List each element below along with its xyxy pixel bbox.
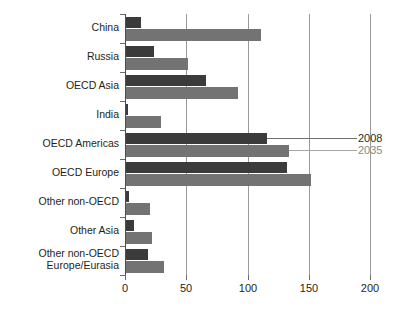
- bar-other-non-oecd-2035: [125, 203, 150, 215]
- bar-oecd-asia-2035: [125, 87, 238, 99]
- x-tick-100: [248, 275, 249, 280]
- series-label-2035: 2035: [358, 144, 382, 156]
- bar-russia-2008: [125, 46, 154, 57]
- bar-oecd-europe-2035: [125, 174, 311, 186]
- bar-oecd-europe-2008: [125, 162, 287, 173]
- cat-label-8: Other non-OECD Europe/Eurasia: [0, 248, 119, 271]
- x-tick-200: [370, 275, 371, 280]
- cat-label-6: Other non-OECD: [0, 196, 119, 208]
- bar-other-asia-2035: [125, 232, 152, 244]
- cat-label-3: India: [0, 109, 119, 121]
- x-tick-150: [309, 275, 310, 280]
- cat-label-1: Russia: [0, 51, 119, 63]
- bar-russia-2035: [125, 58, 188, 70]
- bar-other-asia-2008: [125, 220, 134, 231]
- cat-label-2: OECD Asia: [0, 80, 119, 92]
- bar-china-2035: [125, 29, 261, 41]
- series-label-2008: 2008: [358, 132, 382, 144]
- y-axis-category-labels: China Russia OECD Asia India OECD Americ…: [0, 14, 119, 275]
- cat-label-0: China: [0, 22, 119, 34]
- gridline-150: [309, 14, 310, 275]
- bar-chart: China Russia OECD Asia India OECD Americ…: [0, 0, 399, 313]
- leader-line-2035: [289, 150, 357, 151]
- bar-china-2008: [125, 17, 141, 28]
- plot-area: [125, 14, 370, 275]
- x-tick-label-0: 0: [105, 282, 145, 294]
- x-tick-label-100: 100: [228, 282, 268, 294]
- bar-india-2035: [125, 116, 161, 128]
- leader-line-2008: [267, 138, 357, 139]
- x-tick-label-50: 50: [166, 282, 206, 294]
- bar-other-non-oecd-europe-eurasia-2008: [125, 249, 148, 260]
- bar-oecd-asia-2008: [125, 75, 206, 86]
- cat-label-7: Other Asia: [0, 225, 119, 237]
- x-tick-label-150: 150: [289, 282, 329, 294]
- y-axis-line: [125, 14, 126, 275]
- x-tick-0: [125, 275, 126, 280]
- bar-oecd-americas-2035: [125, 145, 289, 157]
- bar-other-non-oecd-europe-eurasia-2035: [125, 261, 164, 273]
- cat-label-4: OECD Americas: [0, 138, 119, 150]
- bar-oecd-americas-2008: [125, 133, 267, 144]
- x-tick-label-200: 200: [350, 282, 390, 294]
- cat-label-5: OECD Europe: [0, 167, 119, 179]
- x-tick-50: [186, 275, 187, 280]
